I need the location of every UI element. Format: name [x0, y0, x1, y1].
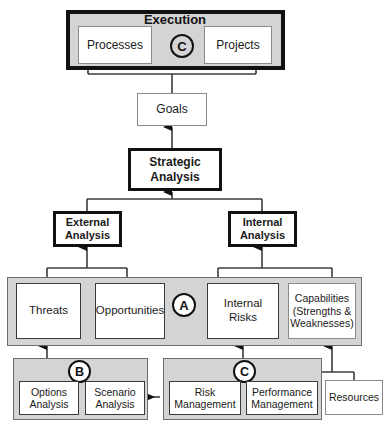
node-projects: Projects	[204, 26, 272, 64]
node-capabilities-line1: Capabilities	[290, 292, 353, 304]
node-capabilities: Capabilities (Strengths & Weaknesses)	[288, 283, 356, 339]
node-strategic-analysis-line2: Analysis	[149, 170, 200, 184]
marker-options-b: B	[68, 360, 91, 383]
marker-options-b-label: B	[75, 365, 84, 379]
node-resources-label: Resources	[329, 391, 379, 403]
node-internal-risks-line2: Risks	[224, 311, 262, 325]
node-internal-risks-line1: Internal	[224, 297, 262, 311]
marker-execution-c: C	[170, 34, 194, 58]
node-performance-management-line2: Management	[251, 398, 312, 410]
node-opportunities-label: Opportunities	[96, 304, 164, 318]
node-capabilities-line2: (Strengths &	[290, 305, 353, 317]
node-options-analysis-line1: Options	[29, 386, 68, 398]
node-opportunities: Opportunities	[95, 283, 165, 339]
node-external-analysis: External Analysis	[53, 211, 122, 247]
marker-management-c-label: C	[240, 365, 249, 379]
node-goals: Goals	[137, 93, 207, 126]
diagram-canvas: Execution Processes Projects C Goals Str…	[0, 0, 391, 430]
execution-title: Execution	[120, 12, 230, 27]
node-threats: Threats	[16, 283, 81, 339]
node-internal-risks: Internal Risks	[207, 283, 279, 339]
node-risk-management-line2: Management	[174, 398, 235, 410]
marker-execution-c-label: C	[177, 39, 186, 54]
node-scenario-analysis-line2: Analysis	[94, 398, 135, 410]
node-risk-management: Risk Management	[169, 381, 241, 415]
node-scenario-analysis: Scenario Analysis	[85, 381, 145, 415]
node-goals-label: Goals	[156, 102, 187, 116]
node-internal-analysis-line1: Internal	[240, 216, 285, 229]
node-threats-label: Threats	[29, 304, 68, 318]
marker-management-c: C	[233, 360, 256, 383]
node-risk-management-line1: Risk	[174, 386, 235, 398]
node-internal-analysis: Internal Analysis	[228, 211, 297, 247]
node-processes-label: Processes	[87, 38, 143, 52]
node-external-analysis-line2: Analysis	[65, 229, 110, 242]
node-strategic-analysis-line1: Strategic	[149, 155, 200, 169]
node-scenario-analysis-line1: Scenario	[94, 386, 135, 398]
node-options-analysis-line2: Analysis	[29, 398, 68, 410]
node-projects-label: Projects	[216, 38, 259, 52]
node-performance-management-line1: Performance	[251, 386, 312, 398]
node-performance-management: Performance Management	[246, 381, 318, 415]
marker-analysis-a: A	[172, 293, 196, 317]
node-options-analysis: Options Analysis	[19, 381, 79, 415]
marker-analysis-a-label: A	[179, 298, 188, 313]
node-capabilities-line3: Weaknesses)	[290, 317, 353, 329]
node-processes: Processes	[78, 26, 152, 64]
node-internal-analysis-line2: Analysis	[240, 229, 285, 242]
node-strategic-analysis: Strategic Analysis	[128, 148, 222, 191]
node-external-analysis-line1: External	[65, 216, 110, 229]
node-resources: Resources	[325, 380, 383, 415]
